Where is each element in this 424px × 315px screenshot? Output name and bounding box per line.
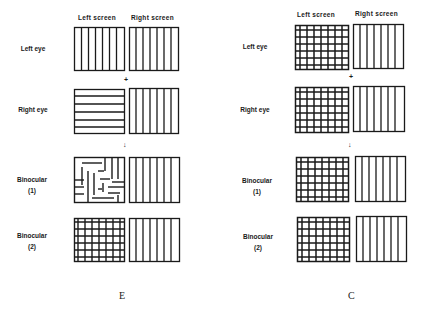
stimulus-right-eye-right-screen [353,86,405,132]
row-label-binocular-2: Binocular(2) [233,231,283,253]
stimulus-binocular-2-left-screen [297,217,350,262]
stimulus-right-eye-left-screen [295,87,349,133]
column-header-left-screen: Left screen [78,14,116,21]
row-label-binocular-1: Binocular(1) [232,175,282,197]
row-label-left-eye: Left eye [8,43,58,54]
stimulus-right-eye-left-screen [74,89,125,134]
row-label-left-eye: Left eye [230,41,280,52]
stimulus-binocular-1-right-screen [355,156,406,202]
stimulus-binocular-2-left-screen [74,218,125,262]
figure-caption-c: C [348,290,355,301]
figure-caption-e: E [119,290,125,301]
stimulus-binocular-1-left-screen [74,157,125,203]
row-label-binocular-2: Binocular(2) [7,230,57,252]
stimulus-left-eye-left-screen [295,25,349,70]
row-label-right-eye: Right eye [8,104,58,115]
column-header-right-screen: Right screen [355,10,398,17]
stimulus-left-eye-right-screen [353,24,404,69]
stimulus-right-eye-right-screen [129,88,179,134]
column-header-left-screen: Left screen [297,11,335,18]
stimulus-binocular-1-right-screen [129,157,180,203]
plus-symbol: + [124,76,128,83]
stimulus-left-eye-left-screen [74,27,125,71]
down-arrow-icon: ↓ [123,141,127,148]
stimulus-binocular-2-right-screen [356,216,407,262]
row-label-binocular-1: Binocular(1) [7,174,57,196]
stimulus-left-eye-right-screen [129,27,179,71]
stimulus-binocular-2-right-screen [129,218,180,262]
row-label-right-eye: Right eye [230,104,280,115]
column-header-right-screen: Right screen [131,14,174,21]
plus-symbol: + [349,73,353,80]
down-arrow-icon: ↓ [348,141,352,148]
stimulus-binocular-1-left-screen [296,157,349,202]
